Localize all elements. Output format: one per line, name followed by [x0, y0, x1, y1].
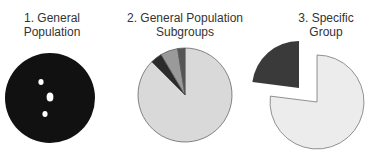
individual-marker	[42, 111, 47, 117]
pie-slice-specific-group	[252, 41, 299, 88]
individual-marker	[38, 79, 43, 85]
individual-marker	[47, 93, 54, 102]
pie-charts-canvas	[0, 0, 391, 152]
